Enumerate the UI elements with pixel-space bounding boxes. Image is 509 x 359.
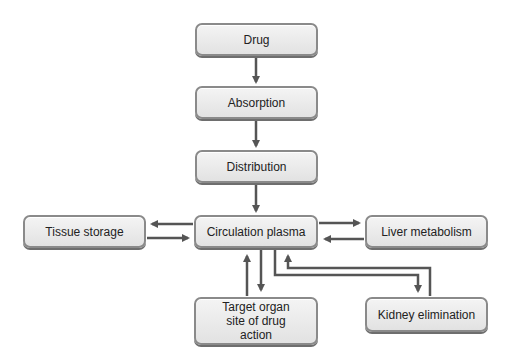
node-tissue-storage: Tissue storage [23,215,146,248]
node-target-label: Target organ site of drug action [218,300,294,342]
node-absorption: Absorption [195,86,318,119]
node-target-organ: Target organ site of drug action [194,297,318,345]
node-absorption-label: Absorption [228,96,285,110]
node-liver-label: Liver metabolism [381,225,472,239]
node-drug: Drug [195,23,318,56]
node-circulation-label: Circulation plasma [207,225,306,239]
node-kidney-label: Kidney elimination [378,308,475,322]
node-drug-label: Drug [243,33,269,47]
node-kidney-elimination: Kidney elimination [365,297,488,332]
node-distribution: Distribution [195,150,318,183]
node-tissue-label: Tissue storage [45,225,123,239]
node-liver-metabolism: Liver metabolism [365,215,488,248]
arrow-circulation-kidney [275,250,418,291]
node-distribution-label: Distribution [226,160,286,174]
node-circulation-plasma: Circulation plasma [194,215,318,248]
